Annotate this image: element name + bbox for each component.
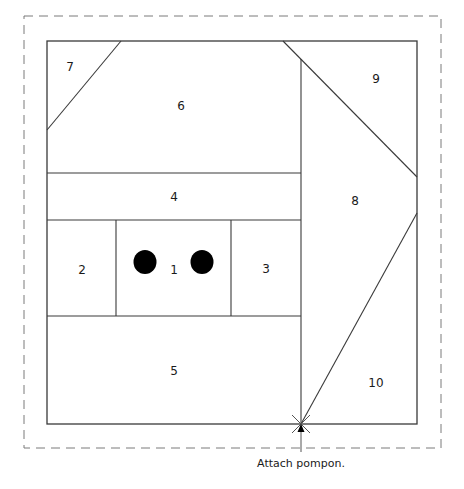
piece-label-9: 9 [372, 73, 380, 85]
piece-label-1: 1 [170, 264, 178, 276]
pompon-caption: Attach pompon. [257, 457, 345, 470]
right-eye-icon [191, 250, 214, 274]
block-frame [47, 41, 417, 424]
piece-label-10: 10 [368, 377, 383, 389]
piece-label-8: 8 [351, 195, 359, 207]
piece-label-6: 6 [177, 100, 185, 112]
piece-label-3: 3 [262, 263, 270, 275]
piece-label-4: 4 [170, 191, 178, 203]
seam-piece-7 [47, 41, 121, 130]
piece-label-2: 2 [78, 264, 86, 276]
seam-piece-10 [301, 213, 417, 424]
piece-label-7: 7 [66, 61, 74, 73]
left-eye-icon [134, 250, 157, 274]
piece-label-5: 5 [170, 365, 178, 377]
seam-piece-9 [283, 41, 417, 177]
